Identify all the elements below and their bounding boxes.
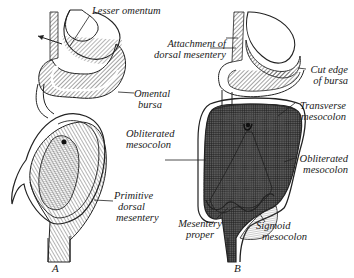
label-sigmoid-mesocolon: Sigmoid mesocolon (256, 220, 307, 242)
panel-a-drawing (12, 10, 126, 262)
label-line: of bursa (304, 75, 348, 86)
label-line: mesentery (114, 212, 159, 223)
label-line: proper (172, 229, 228, 240)
label-omental-bursa: Omental bursa (134, 88, 170, 110)
label-line: mesocolon (290, 111, 346, 122)
label-mesentery-proper: Mesentery proper (172, 218, 228, 240)
label-line: Obliterated (126, 128, 174, 139)
label-line: Obliterated (292, 153, 348, 164)
label-line: Mesentery (172, 218, 228, 229)
label-attachment-of-dorsal-mesentery: Attachment of dorsal mesentery (134, 38, 226, 60)
label-line: mesocolon (256, 231, 307, 242)
label-obliterated-mesocolon-right: Obliterated mesocolon (292, 153, 348, 175)
label-line: Primitive (114, 190, 159, 201)
label-transverse-mesocolon: Transverse mesocolon (290, 100, 346, 122)
panel-letter-a: A (52, 262, 59, 274)
label-lesser-omentum: Lesser omentum (92, 5, 161, 16)
label-cut-edge-of-bursa: Cut edge of bursa (304, 64, 348, 86)
label-line: mesocolon (292, 164, 348, 175)
label-line: mesocolon (126, 139, 174, 150)
label-line: Lesser omentum (92, 5, 161, 16)
panel-letter-b: B (234, 262, 241, 274)
label-line: Omental (134, 88, 170, 99)
label-line: Transverse (290, 100, 346, 111)
label-line: dorsal mesentery (134, 49, 226, 60)
label-line: bursa (134, 99, 170, 110)
label-line: Sigmoid (256, 220, 307, 231)
label-line: dorsal (114, 201, 159, 212)
label-primitive-dorsal-mesentery: Primitive dorsal mesentery (114, 190, 159, 223)
label-obliterated-mesocolon-left: Obliterated mesocolon (126, 128, 174, 150)
label-line: Cut edge (304, 64, 348, 75)
label-line: Attachment of (134, 38, 226, 49)
